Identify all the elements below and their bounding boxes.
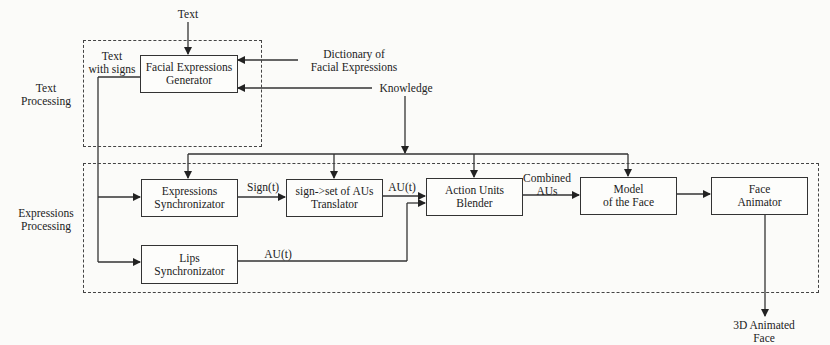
model-of-face-block: Model of the Face	[580, 177, 677, 215]
dictionary-input-label: Dictionary of Facial Expressions	[302, 48, 406, 74]
expressions-synchronizator-block: Expressions Synchronizator	[141, 179, 238, 217]
au-t-translator-label: AU(t)	[386, 181, 418, 194]
output-3d-animated-face-label: 3D Animated Face	[724, 319, 804, 345]
sign-t-label: Sign(t)	[243, 181, 283, 194]
translator-block: sign->set of AUs Translator	[286, 179, 383, 217]
knowledge-input-label: Knowledge	[376, 82, 436, 95]
text-processing-label: Text Processing	[16, 82, 76, 108]
text-input-label: Text	[170, 8, 206, 21]
action-units-blender-block: Action Units Blender	[426, 178, 523, 216]
expressions-processing-label: Expressions Processing	[10, 207, 82, 233]
face-animator-block: Face Animator	[711, 177, 808, 215]
lips-synchronizator-block: Lips Synchronizator	[141, 245, 238, 284]
facial-expressions-generator-block: Facial Expressions Generator	[140, 55, 238, 93]
combined-aus-label: Combined AUs	[519, 172, 575, 198]
au-t-lips-label: AU(t)	[262, 248, 294, 261]
text-with-signs-label: Text with signs	[86, 50, 138, 76]
